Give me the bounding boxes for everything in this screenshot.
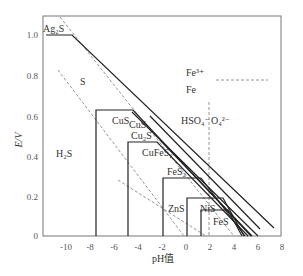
y-axis-label: E/V xyxy=(13,131,24,149)
y-axis: 0 0.2 0.4 0.6 0.8 1.0 E/V xyxy=(13,30,39,241)
eh-ph-diagram: 0 0.2 0.4 0.6 0.8 1.0 E/V -10 -8 -6 -4 -… xyxy=(0,0,303,276)
label-cu2s: Cu₂S xyxy=(131,130,152,141)
label-fe3: Fe³⁺ xyxy=(186,67,204,78)
y-tick: 0.4 xyxy=(27,152,39,162)
plot-frame xyxy=(43,16,281,236)
y-tick: 1.0 xyxy=(27,30,39,40)
x-axis: -10 -8 -6 -4 -2 0 2 4 6 8 pH值 xyxy=(60,242,285,264)
label-h2s: H₂S xyxy=(56,148,72,159)
y-tick: 0.6 xyxy=(27,112,39,122)
x-tick: -4 xyxy=(134,242,142,252)
label-cus-2: CuS xyxy=(129,119,146,130)
x-tick: -10 xyxy=(60,242,72,252)
label-cus-1: CuS xyxy=(112,115,129,126)
y-tick: 0.2 xyxy=(27,192,38,202)
dashed-line-fes xyxy=(118,180,206,236)
x-axis-label: pH值 xyxy=(152,252,174,264)
label-cufes2: CuFeS₂ xyxy=(142,147,173,158)
y-tick: 0.8 xyxy=(27,71,39,81)
label-so4: O₄²⁻ xyxy=(211,115,230,126)
x-tick: 8 xyxy=(280,242,285,252)
label-fe: Fe xyxy=(186,84,197,95)
label-fes: FeS xyxy=(213,216,229,227)
label-hso4: HSO₄⁻ xyxy=(181,115,210,126)
y-tick: 0 xyxy=(34,231,39,241)
solid-boundaries xyxy=(46,35,274,236)
x-tick: -6 xyxy=(110,242,118,252)
x-tick: 2 xyxy=(208,242,213,252)
x-tick: -8 xyxy=(86,242,94,252)
label-s: S xyxy=(80,76,86,87)
label-nis: NiS xyxy=(200,203,216,214)
x-tick: 0 xyxy=(184,242,189,252)
label-ag2s: Ag₂S xyxy=(43,23,64,34)
boundary-ag2s xyxy=(46,35,274,228)
boundary-diag-a xyxy=(160,140,252,236)
x-tick: -2 xyxy=(158,242,166,252)
region-labels: Ag₂S S H₂S CuS CuS Cu₂S CuFeS₂ FeS₂ ZnS … xyxy=(43,23,230,227)
x-tick: 4 xyxy=(232,242,237,252)
label-zns: ZnS xyxy=(168,203,185,214)
label-fes2: FeS₂ xyxy=(167,166,186,177)
x-tick: 6 xyxy=(256,242,261,252)
